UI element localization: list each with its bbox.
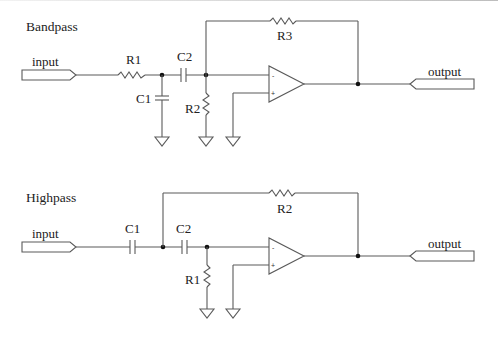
ground-icon [199, 137, 213, 146]
highpass-output-port-icon[interactable] [410, 251, 474, 261]
bandpass-title: Bandpass [26, 19, 78, 34]
label-r2: R2 [277, 201, 292, 216]
label-r1: R1 [126, 52, 141, 67]
opamp-plus-pin: + [271, 90, 275, 97]
highpass-title: Highpass [26, 190, 76, 205]
label-c2: C2 [176, 221, 191, 236]
ground-icon [226, 309, 240, 318]
label-r3: R3 [277, 28, 292, 43]
highpass-output-label: output [428, 236, 462, 251]
junction-node [356, 82, 361, 87]
label-r1: R1 [185, 272, 200, 287]
label-c1: C1 [125, 221, 140, 236]
ground-icon [226, 137, 240, 146]
highpass-circuit: Highpass input C1 C2 R1 R2 - + [22, 190, 474, 318]
label-c1: C1 [136, 91, 151, 106]
resistor-r3-icon [270, 18, 296, 24]
bandpass-output-label: output [428, 64, 462, 79]
highpass-input-label: input [32, 226, 59, 241]
opamp-minus-pin: - [272, 72, 275, 79]
opamp-plus-pin: + [271, 262, 275, 269]
resistor-r2-icon [269, 190, 295, 196]
ground-icon [155, 137, 169, 146]
bandpass-circuit: Bandpass input R1 C2 C1 R2 [22, 18, 474, 146]
label-r2: R2 [185, 101, 200, 116]
opamp-minus-pin: - [272, 244, 275, 251]
bandpass-input-label: input [32, 54, 59, 69]
junction-node [356, 254, 361, 259]
highpass-input-port-icon[interactable] [22, 242, 76, 252]
bandpass-input-port-icon[interactable] [22, 70, 76, 80]
resistor-r1-icon [204, 265, 210, 287]
bandpass-output-port-icon[interactable] [410, 79, 474, 89]
resistor-r1-icon [118, 72, 145, 78]
ground-icon [200, 309, 214, 318]
resistor-r2-icon [203, 93, 209, 115]
label-c2: C2 [177, 49, 192, 64]
schematic-canvas: Bandpass input R1 C2 C1 R2 [0, 0, 498, 339]
